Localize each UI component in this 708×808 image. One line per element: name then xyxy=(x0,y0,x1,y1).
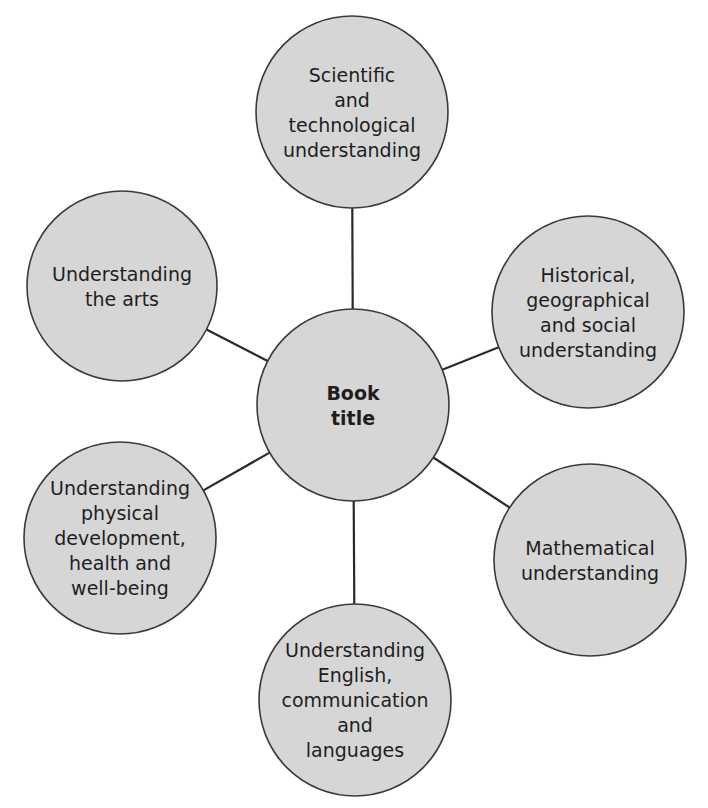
node-label-line: English, xyxy=(318,664,393,686)
node-label-line: physical xyxy=(81,502,159,524)
node-label-line: the arts xyxy=(85,288,159,310)
node-arts: Understandingthe arts xyxy=(27,191,217,381)
node-circle xyxy=(27,191,217,381)
node-label-line: title xyxy=(331,407,375,429)
node-label-line: Historical, xyxy=(540,264,635,286)
connector-english xyxy=(354,501,355,604)
node-circle xyxy=(256,16,448,208)
node-label-line: communication xyxy=(282,689,429,711)
node-circle xyxy=(494,464,686,656)
node-label-line: Understanding xyxy=(50,477,190,499)
connector-mathematical xyxy=(433,458,509,508)
node-label-line: development, xyxy=(54,527,185,549)
node-label-line: languages xyxy=(306,739,404,761)
node-label-line: geographical xyxy=(526,289,650,311)
node-mathematical: Mathematicalunderstanding xyxy=(494,464,686,656)
node-label-line: understanding xyxy=(519,339,657,361)
node-label-line: Understanding xyxy=(52,263,192,285)
node-label-line: and social xyxy=(540,314,636,336)
node-label-line: understanding xyxy=(521,562,659,584)
connector-physical xyxy=(203,453,269,491)
node-label-line: health and xyxy=(69,552,171,574)
center-node-book-title: Booktitle xyxy=(257,309,449,501)
connector-historical xyxy=(442,347,498,369)
node-scientific: Scientificandtechnologicalunderstanding xyxy=(256,16,448,208)
node-label-line: Scientific xyxy=(309,64,396,86)
node-physical: Understandingphysicaldevelopment,health … xyxy=(24,442,216,634)
node-label-line: and xyxy=(334,89,370,111)
node-circle xyxy=(257,309,449,501)
node-label-line: Understanding xyxy=(285,639,425,661)
node-label-line: Book xyxy=(326,382,380,404)
node-label-line: Mathematical xyxy=(525,537,654,559)
node-english: UnderstandingEnglish,communicationandlan… xyxy=(259,604,451,796)
nodes: BooktitleScientificandtechnologicalunder… xyxy=(24,16,686,796)
node-label-line: understanding xyxy=(283,139,421,161)
node-label-line: and xyxy=(337,714,373,736)
node-label-line: well-being xyxy=(71,577,169,599)
mind-map-diagram: BooktitleScientificandtechnologicalunder… xyxy=(0,0,708,808)
node-historical: Historical,geographicaland socialunderst… xyxy=(492,216,684,408)
node-label-line: technological xyxy=(289,114,416,136)
node-circle xyxy=(492,216,684,408)
connector-arts xyxy=(207,330,268,362)
